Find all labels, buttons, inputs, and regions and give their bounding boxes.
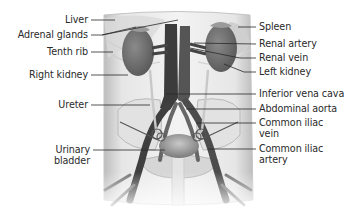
label-right-kidney: Right kidney [0, 69, 88, 80]
label-tenth-rib: Tenth rib [0, 46, 88, 57]
label-renal-vein: Renal vein [259, 52, 308, 63]
label-ureter: Ureter [0, 99, 88, 110]
label-common-iliac-artery: Common iliac artery [259, 143, 331, 165]
label-common-iliac-vein: Common iliac vein [259, 117, 331, 139]
label-urinary-bladder: Urinary bladder [46, 144, 90, 166]
label-renal-artery: Renal artery [259, 38, 317, 49]
label-spleen: Spleen [259, 21, 291, 32]
label-liver: Liver [0, 14, 88, 25]
label-abdominal-aorta: Abdominal aorta [259, 103, 337, 114]
label-adrenal-glands: Adrenal glands [0, 29, 88, 40]
label-left-kidney: Left kidney [259, 66, 311, 77]
label-inferior-vena-cava: Inferior vena cava [259, 88, 344, 99]
urinary-system-diagram: Liver Adrenal glands Tenth rib Right kid… [0, 0, 355, 215]
